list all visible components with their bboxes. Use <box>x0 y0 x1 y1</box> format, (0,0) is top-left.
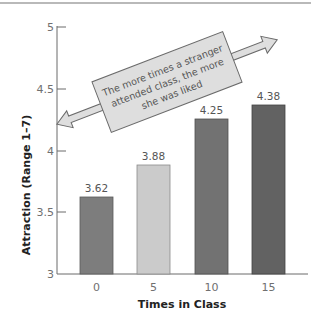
value-label-5: 3.88 <box>142 150 165 162</box>
bar-5 <box>137 165 170 274</box>
x-tick-label: 15 <box>262 281 276 294</box>
x-tick-label: 10 <box>205 281 219 294</box>
y-axis-title: Attraction (Range 1–7) <box>20 115 33 255</box>
y-tick-label: 3 <box>47 268 54 281</box>
y-tick-label: 3.5 <box>37 206 55 219</box>
value-label-0: 3.62 <box>85 182 108 194</box>
bar-10 <box>195 119 228 274</box>
x-tick-labels: 0 5 10 15 <box>93 281 276 294</box>
bar-0 <box>80 197 113 274</box>
bar-15 <box>252 105 285 274</box>
x-tick-label: 5 <box>150 281 157 294</box>
y-tick-label: 5 <box>47 21 54 34</box>
x-tick-label: 0 <box>93 281 100 294</box>
value-label-10: 4.25 <box>200 104 223 116</box>
y-tick-label: 4.5 <box>37 83 55 96</box>
callout-annotation: The more times a stranger attended class… <box>47 15 287 150</box>
value-label-15: 4.38 <box>257 90 280 102</box>
x-axis-title: Times in Class <box>138 298 227 311</box>
y-tick-label: 4 <box>47 145 54 158</box>
y-ticks: 5 4.5 4 3.5 3 <box>37 21 67 281</box>
bar-chart: 5 4.5 4 3.5 3 Attraction (Range 1–7) 3.6… <box>0 0 311 321</box>
